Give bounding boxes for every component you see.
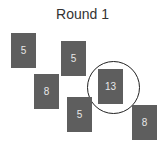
card: 8 [34,74,59,109]
card-value: 5 [71,53,77,64]
card: 5 [61,41,86,76]
card: 5 [67,97,92,132]
card-value: 5 [21,45,27,56]
card-value: 8 [44,86,50,97]
card-value: 5 [77,109,83,120]
card-value: 8 [142,117,148,128]
card: 5 [11,33,36,68]
card-value: 13 [105,81,116,92]
highlighted-card: 13 [98,69,123,104]
round-title: Round 1 [0,6,165,22]
round-diagram: Round 1 5 5 8 13 5 8 [0,0,165,150]
card: 8 [132,105,157,140]
